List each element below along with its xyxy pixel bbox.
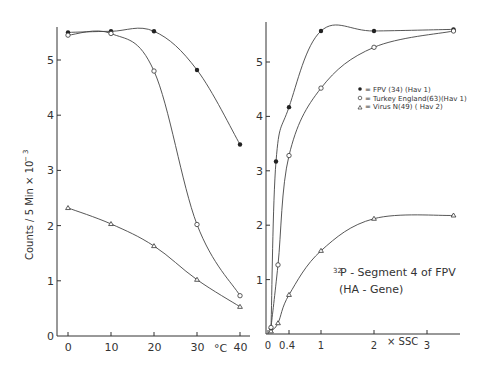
- right-panel: 12345 00.4123 × SSC = FPV (34) (Hav 1) =…: [256, 22, 467, 351]
- filled-circle-marker: [152, 29, 156, 33]
- left-x-unit: °C: [214, 342, 228, 355]
- open-circle-marker: [152, 69, 156, 73]
- legend-item-fpv: = FPV (34) (Hav 1): [365, 86, 431, 94]
- y-tick-label: 1: [256, 274, 263, 287]
- open-circle-marker: [319, 86, 323, 90]
- x-tick-label: 40: [233, 341, 247, 354]
- x-tick-label: 20: [147, 341, 161, 354]
- y-tick-label: 0: [47, 330, 54, 343]
- open-circle-marker: [287, 153, 291, 157]
- annotation-line-2: (HA - Gene): [339, 283, 403, 296]
- left-y-label: Counts / 5 Min × 10 − 3: [22, 149, 35, 260]
- x-tick-label: 10: [104, 341, 118, 354]
- triangle-marker: [66, 206, 71, 210]
- open-circle-marker: [66, 33, 70, 37]
- triangle-marker: [195, 277, 200, 281]
- x-tick-label: 2: [371, 340, 377, 351]
- annotation-line-1: P - Segment 4 of FPV: [340, 266, 456, 279]
- series-line: [68, 28, 240, 144]
- legend-triangle-icon: [358, 106, 362, 110]
- open-circle-marker: [109, 31, 113, 35]
- y-tick-label: 2: [256, 219, 263, 232]
- open-circle-marker: [276, 263, 280, 267]
- triangle-marker: [276, 321, 281, 325]
- series-line: [68, 208, 240, 307]
- y-axis-label: Counts / 5 Min × 10: [24, 161, 35, 260]
- legend-item-turkey: = Turkey England(63)(Hav 1): [365, 95, 467, 103]
- y-tick-label: 3: [47, 164, 54, 177]
- x-tick-label: 3: [424, 340, 430, 351]
- right-y-ticks: 12345: [256, 56, 270, 287]
- filled-circle-marker: [274, 159, 278, 163]
- filled-circle-marker: [287, 105, 291, 109]
- chart-figure: 012345 010203040 °C Counts / 5 Min × 10 …: [0, 0, 485, 369]
- filled-circle-marker: [238, 142, 242, 146]
- filled-circle-marker: [195, 68, 199, 72]
- y-tick-label: 5: [256, 56, 263, 69]
- triangle-marker: [152, 244, 157, 248]
- right-x-unit: × SSC: [387, 336, 418, 347]
- y-tick-label: 4: [47, 109, 54, 122]
- left-y-ticks: 012345: [47, 54, 61, 343]
- left-series: [66, 28, 243, 308]
- x-tick-label: 0: [65, 341, 72, 354]
- filled-circle-marker: [372, 29, 376, 33]
- legend: = FPV (34) (Hav 1) = Turkey England(63)(…: [358, 86, 467, 111]
- triangle-marker: [287, 292, 292, 296]
- left-panel: 012345 010203040 °C Counts / 5 Min × 10 …: [22, 27, 250, 355]
- x-tick-label: 1: [318, 340, 324, 351]
- y-tick-label: 2: [47, 220, 54, 233]
- legend-open-circle-icon: [358, 96, 362, 100]
- annotation: 32 P - Segment 4 of FPV (HA - Gene): [333, 266, 456, 296]
- x-tick-label: 0: [265, 340, 271, 351]
- y-tick-label: 4: [256, 110, 263, 123]
- filled-circle-marker: [319, 29, 323, 33]
- legend-filled-circle-icon: [358, 87, 362, 91]
- legend-item-virus-n: = Virus N(49) ( Hav 2): [365, 103, 443, 111]
- triangle-marker: [238, 304, 243, 308]
- x-tick-label: 30: [190, 341, 204, 354]
- open-circle-marker: [238, 294, 242, 298]
- open-circle-marker: [195, 222, 199, 226]
- x-tick-label: 0.4: [279, 340, 295, 351]
- open-circle-marker: [451, 29, 455, 33]
- open-circle-marker: [372, 45, 376, 49]
- y-tick-label: 1: [47, 275, 54, 288]
- y-tick-label: 5: [47, 54, 54, 67]
- y-axis-label-exponent: − 3: [22, 149, 30, 162]
- y-tick-label: 3: [256, 165, 263, 178]
